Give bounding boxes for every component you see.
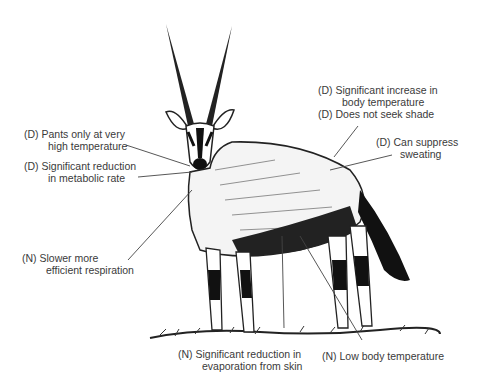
label-body-temp-increase-text: (D) Significant increase in [318, 84, 438, 96]
label-pants: (D) Pants only at very high temperature [24, 128, 127, 152]
label-evaporation-text: (N) Significant reduction in [178, 348, 301, 360]
label-sweating-text: (D) Can suppress [376, 136, 458, 148]
label-shade: (D) Does not seek shade [318, 108, 434, 120]
label-metabolic-text: (D) Significant reduction [24, 160, 136, 172]
label-body-temp-increase: (D) Significant increase in body tempera… [318, 84, 438, 108]
label-shade-text: (D) Does not seek shade [318, 108, 434, 120]
label-pants-text: (D) Pants only at very [24, 128, 125, 140]
label-sweating: (D) Can suppress sweating [376, 136, 458, 160]
label-respiration: (N) Slower more efficient respiration [22, 252, 134, 276]
label-evaporation: (N) Significant reduction in evaporation… [178, 348, 302, 372]
oryx-illustration [0, 0, 488, 385]
label-respiration-text: (N) Slower more [22, 252, 98, 264]
label-low-temp: (N) Low body temperature [322, 350, 444, 362]
label-metabolic: (D) Significant reduction in metabolic r… [24, 160, 136, 184]
label-low-temp-text: (N) Low body temperature [322, 350, 444, 362]
